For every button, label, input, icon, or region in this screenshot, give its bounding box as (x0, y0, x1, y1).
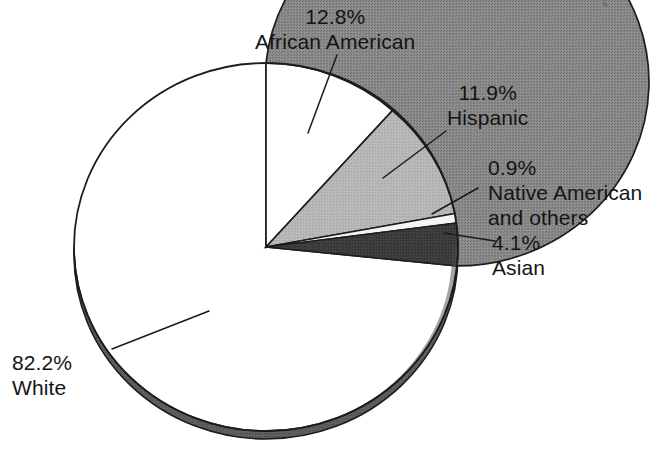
label-native-american-name-line2: and others (488, 205, 642, 230)
label-african-american: 12.8% African American (255, 4, 415, 54)
label-asian-name: Asian (492, 255, 545, 280)
label-native-american-name-line1: Native American (488, 180, 642, 205)
label-hispanic-percent: 11.9% (447, 80, 528, 105)
label-white-percent: 82.2% (12, 350, 72, 375)
pie-inner-shading (266, 247, 458, 431)
label-asian-percent: 4.1% (492, 230, 545, 255)
label-white: 82.2% White (12, 350, 72, 400)
label-hispanic-name: Hispanic (447, 105, 528, 130)
label-native-american-percent: 0.9% (488, 155, 642, 180)
pie-3d-side (74, 247, 458, 439)
label-african-american-percent: 12.8% (255, 4, 415, 29)
label-hispanic: 11.9% Hispanic (447, 80, 528, 130)
pie-chart-figure: 12.8% African American 11.9% Hispanic 0.… (0, 0, 663, 452)
leader-line-white (112, 311, 209, 349)
label-asian: 4.1% Asian (492, 230, 545, 280)
label-white-name: White (12, 375, 72, 400)
label-native-american: 0.9% Native American and others (488, 155, 642, 230)
label-african-american-name: African American (255, 29, 415, 54)
